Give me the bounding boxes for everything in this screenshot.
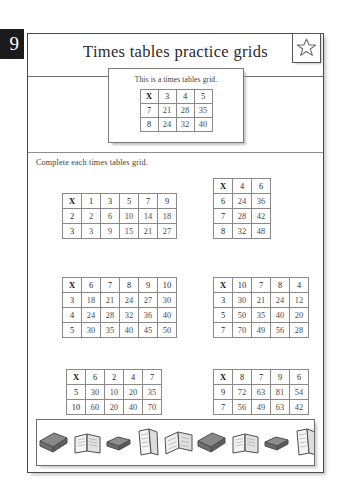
grid-1-cell-r2c4[interactable]: 21 — [139, 224, 158, 239]
grid-4-cell-r2c2[interactable]: 35 — [252, 308, 271, 323]
grid-2-column-header-1: 4 — [233, 179, 252, 194]
grid-3-cell-r1c4[interactable]: 27 — [139, 293, 158, 308]
grid-1-cell-r1c4[interactable]: 14 — [139, 209, 158, 224]
instruction-text: Complete each times tables grid. — [36, 158, 148, 167]
example-grid-header-row: X345 — [140, 90, 212, 104]
example-grid-cell-r1c3[interactable]: 35 — [194, 104, 212, 118]
grid-5-cell-r1c1[interactable]: 30 — [86, 385, 105, 400]
grid-6-row-header-2: 7 — [214, 400, 233, 415]
exercise-grid-4[interactable]: X10784330212412550354020770495628 — [213, 277, 309, 338]
grid-1-corner-cell: X — [63, 194, 82, 209]
example-grid-corner-cell: X — [140, 90, 158, 104]
grid-5-cell-r2c4[interactable]: 70 — [143, 400, 162, 415]
grid-6-cell-r2c4[interactable]: 42 — [290, 400, 309, 415]
grid-5-cell-r2c2[interactable]: 20 — [105, 400, 124, 415]
grid-4-cell-r1c3[interactable]: 24 — [271, 293, 290, 308]
grid-3-row-header-2: 4 — [63, 308, 82, 323]
example-grid-cell-r1c1[interactable]: 21 — [158, 104, 176, 118]
grid-6-cell-r2c1[interactable]: 56 — [233, 400, 252, 415]
grid-1-cell-r1c2[interactable]: 6 — [101, 209, 120, 224]
exercise-grid-6[interactable]: X8796972638154756496342 — [213, 369, 309, 415]
example-grid-column-header-3: 5 — [194, 90, 212, 104]
grid-3-cell-r1c2[interactable]: 21 — [101, 293, 120, 308]
grid-3-cell-r2c5[interactable]: 40 — [158, 308, 177, 323]
grid-1-row-header-2: 3 — [63, 224, 82, 239]
grid-3-cell-r1c3[interactable]: 24 — [120, 293, 139, 308]
grid-1-cell-r1c3[interactable]: 10 — [120, 209, 139, 224]
footer-books-illustration — [36, 419, 315, 466]
exercise-grid-1[interactable]: X13579226101418339152127 — [62, 193, 177, 239]
grid-6-cell-r1c3[interactable]: 81 — [271, 385, 290, 400]
grid-4-cell-r3c2[interactable]: 49 — [252, 323, 271, 338]
grid-3-cell-r3c4[interactable]: 45 — [139, 323, 158, 338]
grid-3-cell-r2c3[interactable]: 32 — [120, 308, 139, 323]
grid-5-cell-r1c4[interactable]: 35 — [143, 385, 162, 400]
grid-6-cell-r1c1[interactable]: 72 — [233, 385, 252, 400]
exercise-slot-4: X10784330212412550354020770495628 — [213, 277, 309, 338]
grid-5-column-header-3: 4 — [124, 370, 143, 385]
grid-1-cell-r2c3[interactable]: 15 — [120, 224, 139, 239]
example-grid-row-header-2: 8 — [140, 118, 158, 132]
grid-3-cell-r3c3[interactable]: 40 — [120, 323, 139, 338]
grid-2-cell-r2c1[interactable]: 28 — [233, 209, 252, 224]
grid-3-header-row: X678910 — [63, 278, 177, 293]
grid-4-cell-r1c4[interactable]: 12 — [290, 293, 309, 308]
grid-4-corner-cell: X — [214, 278, 233, 293]
grid-3-cell-r2c4[interactable]: 36 — [139, 308, 158, 323]
grid-4-row-header-3: 7 — [214, 323, 233, 338]
grid-2-cell-r2c2[interactable]: 42 — [252, 209, 271, 224]
books-row — [37, 420, 314, 465]
example-grid-cell-r2c3[interactable]: 40 — [194, 118, 212, 132]
grid-4-cell-r1c1[interactable]: 30 — [233, 293, 252, 308]
grid-4-cell-r2c1[interactable]: 50 — [233, 308, 252, 323]
grid-6-cell-r1c2[interactable]: 63 — [252, 385, 271, 400]
exercise-grid-3[interactable]: X678910318212427304242832364053035404550 — [62, 277, 177, 338]
grid-1-cell-r2c2[interactable]: 9 — [101, 224, 120, 239]
grid-3-cell-r3c1[interactable]: 30 — [82, 323, 101, 338]
grid-5-cell-r1c3[interactable]: 20 — [124, 385, 143, 400]
grid-3-cell-r3c2[interactable]: 35 — [101, 323, 120, 338]
example-grid-cell-r2c1[interactable]: 24 — [158, 118, 176, 132]
example-grid-cell-r1c2[interactable]: 28 — [176, 104, 194, 118]
example-grid-cell-r2c2[interactable]: 32 — [176, 118, 194, 132]
exercise-slot-1: X13579226101418339152127 — [62, 193, 177, 239]
grid-5-cell-r1c2[interactable]: 10 — [105, 385, 124, 400]
exercise-grid-5[interactable]: X62475301020351060204070 — [66, 369, 162, 415]
grid-5-column-header-4: 7 — [143, 370, 162, 385]
grid-4-cell-r2c4[interactable]: 20 — [290, 308, 309, 323]
grid-4-cell-r1c2[interactable]: 21 — [252, 293, 271, 308]
grid-1-cell-r1c5[interactable]: 18 — [158, 209, 177, 224]
grid-1-header-row: X13579 — [63, 194, 177, 209]
grid-1-cell-r1c1[interactable]: 2 — [82, 209, 101, 224]
exercise-slot-5: X62475301020351060204070 — [66, 369, 162, 415]
grid-4-cell-r2c3[interactable]: 40 — [271, 308, 290, 323]
grid-1-cell-r2c5[interactable]: 27 — [158, 224, 177, 239]
exercise-grid-2[interactable]: X46624367284283248 — [213, 178, 271, 239]
grid-4-cell-r3c1[interactable]: 70 — [233, 323, 252, 338]
grid-3-cell-r1c1[interactable]: 18 — [82, 293, 101, 308]
grid-2-row: 62436 — [214, 194, 271, 209]
grid-2-row-header-3: 8 — [214, 224, 233, 239]
example-grid-row-header-1: 7 — [140, 104, 158, 118]
grid-6-cell-r2c3[interactable]: 63 — [271, 400, 290, 415]
grid-6-cell-r2c2[interactable]: 49 — [252, 400, 271, 415]
closed-book-flat-icon — [263, 431, 291, 455]
grid-3-cell-r3c5[interactable]: 50 — [158, 323, 177, 338]
grid-2-row: 83248 — [214, 224, 271, 239]
grid-5-row-header-2: 10 — [67, 400, 86, 415]
grid-2-corner-cell: X — [214, 179, 233, 194]
grid-2-cell-r3c1[interactable]: 32 — [233, 224, 252, 239]
grid-4-cell-r3c4[interactable]: 28 — [290, 323, 309, 338]
grid-2-cell-r1c1[interactable]: 24 — [233, 194, 252, 209]
grid-2-cell-r3c2[interactable]: 48 — [252, 224, 271, 239]
grid-5-cell-r2c1[interactable]: 60 — [86, 400, 105, 415]
grid-3-cell-r2c2[interactable]: 28 — [101, 308, 120, 323]
grid-4-row-header-2: 5 — [214, 308, 233, 323]
grid-3-cell-r1c5[interactable]: 30 — [158, 293, 177, 308]
grid-3-cell-r2c1[interactable]: 24 — [82, 308, 101, 323]
grid-6-cell-r1c4[interactable]: 54 — [290, 385, 309, 400]
grid-5-cell-r2c3[interactable]: 40 — [124, 400, 143, 415]
grid-2-cell-r1c2[interactable]: 36 — [252, 194, 271, 209]
grid-4-cell-r3c3[interactable]: 56 — [271, 323, 290, 338]
grid-1-cell-r2c1[interactable]: 3 — [82, 224, 101, 239]
